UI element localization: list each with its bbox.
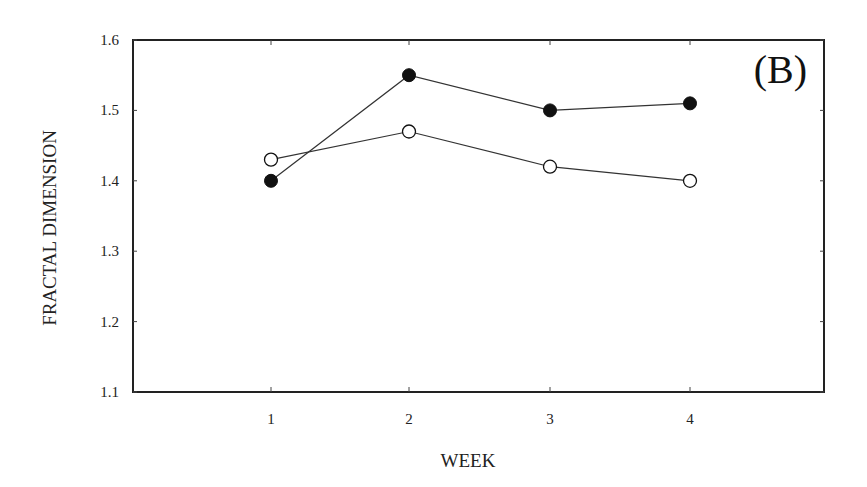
x-axis-title: WEEK [441, 450, 496, 471]
line-chart: 1.11.21.31.41.51.6 1234 (B) WEEK FRACTAL… [0, 0, 867, 487]
open-circle-marker [684, 174, 697, 187]
series-line [271, 75, 690, 181]
x-axis-ticks: 1234 [267, 40, 694, 427]
x-tick-label: 4 [686, 411, 694, 427]
panel-label: (B) [754, 47, 807, 92]
y-tick-label: 1.3 [100, 243, 119, 259]
filled-circle-marker [403, 69, 416, 82]
y-tick-label: 1.4 [100, 173, 119, 189]
open-circle-marker [403, 125, 416, 138]
y-tick-label: 1.2 [100, 314, 119, 330]
series-line [271, 132, 690, 181]
y-axis-title: FRACTAL DIMENSION [39, 130, 60, 326]
open-circle-marker [265, 153, 278, 166]
y-tick-label: 1.6 [100, 32, 119, 48]
x-tick-label: 1 [267, 411, 275, 427]
filled-circle-marker [265, 174, 278, 187]
y-tick-label: 1.5 [100, 102, 119, 118]
y-tick-label: 1.1 [100, 384, 119, 400]
x-tick-label: 2 [405, 411, 413, 427]
y-axis-ticks: 1.11.21.31.41.51.6 [100, 32, 824, 400]
open-circle-marker [544, 160, 557, 173]
series-layer [265, 69, 697, 188]
filled-circle-marker [684, 97, 697, 110]
filled-circle-marker [544, 104, 557, 117]
x-tick-label: 3 [546, 411, 554, 427]
